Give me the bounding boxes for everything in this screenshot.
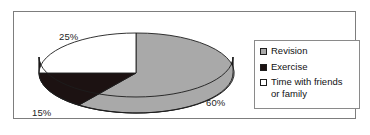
chart-frame-border: 25% 60% 15% Revision Exercise Time with …	[13, 11, 356, 119]
legend-item-exercise: Exercise	[260, 61, 355, 73]
legend-item-revision: Revision	[260, 45, 355, 57]
legend-label-revision: Revision	[271, 45, 307, 57]
legend-swatch-exercise-icon	[260, 64, 267, 71]
pie-chart-figure: 25% 60% 15% Revision Exercise Time with …	[0, 0, 370, 135]
pie-slice-time-with-friends	[39, 33, 136, 73]
legend-swatch-time-with-friends-icon	[260, 79, 267, 86]
legend-label-time-with-friends: Time with friends or family	[271, 76, 342, 99]
legend-swatch-revision-icon	[260, 48, 267, 55]
chart-legend: Revision Exercise Time with friends or f…	[254, 40, 360, 109]
data-label-revision: 60%	[206, 97, 225, 108]
legend-label-exercise: Exercise	[271, 61, 307, 73]
legend-item-time-with-friends: Time with friends or family	[260, 76, 355, 99]
data-label-exercise: 15%	[32, 107, 51, 118]
data-label-time-with-friends: 25%	[59, 31, 78, 42]
